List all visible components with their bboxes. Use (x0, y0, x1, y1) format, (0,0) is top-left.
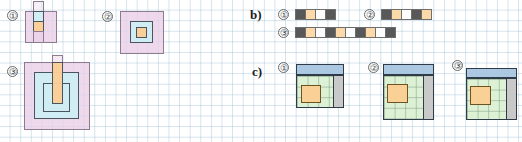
section-b-label: b) (250, 7, 262, 23)
c2-grey-strip (423, 75, 434, 120)
figure-c-item-3-number: ③ (452, 60, 463, 71)
figure-b-item-3-strip (295, 27, 396, 38)
figure-c-item-2-number: ② (368, 62, 379, 73)
c1-blue-band (296, 64, 344, 75)
figure-a-item-1-number: ① (7, 10, 18, 21)
figure-a-item-2-number: ② (102, 11, 113, 22)
figure-c-item-1-number: ① (278, 62, 289, 73)
a1-lower-stub-rect (33, 31, 44, 43)
figure-b-item-1-number: ① (278, 9, 289, 20)
c1-orange-block (301, 85, 321, 103)
a2-orange-rect (136, 27, 147, 38)
figure-b-item-1-strip (295, 9, 336, 20)
section-c-label: c) (252, 64, 262, 80)
figure-b-item-3-number: ③ (278, 27, 289, 38)
c3-grey-strip (506, 78, 517, 120)
b1-cell-4 (325, 9, 336, 20)
b3-cell-10 (385, 27, 396, 38)
c1-grey-strip (333, 75, 344, 108)
figure-b-item-2-number: ② (364, 9, 375, 20)
c3-orange-block (470, 86, 491, 105)
figure-a-item-3-number: ③ (7, 66, 18, 77)
c2-orange-block (387, 84, 408, 103)
a3-orange-rect (52, 62, 63, 104)
c3-blue-band (466, 68, 517, 78)
figure-b-item-2-strip (381, 9, 432, 20)
b2-cell-5 (421, 9, 432, 20)
screenshot-canvas: ① ② ③ b) ① (0, 0, 522, 142)
c2-blue-band (383, 64, 434, 75)
